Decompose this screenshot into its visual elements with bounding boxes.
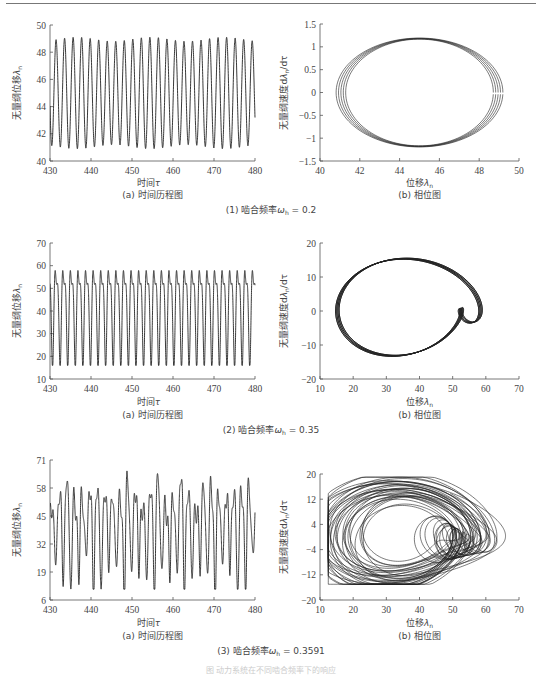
panel-caption: (a) 时间历程图 xyxy=(122,409,182,420)
x-tick-label: 480 xyxy=(248,384,263,394)
phase-orbit xyxy=(343,39,495,146)
y-axis-title: 无量纲速度dλn/dτ xyxy=(278,500,290,574)
axes-frame xyxy=(320,24,519,161)
x-tick-label: 470 xyxy=(207,166,222,176)
y-tick-label: 20 xyxy=(307,470,317,480)
y-tick-label: 58 xyxy=(37,484,47,494)
y-tick-label: 50 xyxy=(37,21,47,31)
figure-caption: 图 动力系统在不同啮合频率下的响应 xyxy=(0,664,542,675)
y-tick-label: 12 xyxy=(307,495,317,505)
x-tick-label: 480 xyxy=(248,605,263,615)
x-tick-label: 430 xyxy=(43,384,58,394)
y-tick-label: 20 xyxy=(307,239,317,249)
x-tick-label: 48 xyxy=(474,166,484,176)
chart-r2b: 10203040506070−20−1001020位移λn无量纲速度dλn/dτ… xyxy=(278,239,524,421)
x-tick-label: 460 xyxy=(166,605,181,615)
x-tick-label: 440 xyxy=(84,384,99,394)
y-axis-title: 无量纲速度dλn/dτ xyxy=(278,274,290,348)
figure-canvas: 430440450460470480404244464850时间τ无量纲位移λn… xyxy=(0,0,542,677)
x-tick-label: 430 xyxy=(43,605,58,615)
svg-text:无量纲速度dλn/dτ: 无量纲速度dλn/dτ xyxy=(278,274,290,348)
phase-orbit xyxy=(346,39,494,146)
x-tick-label: 40 xyxy=(315,166,325,176)
y-axis-title: 无量纲速度dλn/dτ xyxy=(278,55,290,129)
y-tick-label: 45 xyxy=(37,512,47,522)
x-axis-title: 位移λn xyxy=(406,617,433,629)
x-tick-label: 50 xyxy=(448,605,458,615)
y-tick-label: 10 xyxy=(37,375,47,385)
panel-caption: (b) 相位图 xyxy=(398,409,441,420)
x-tick-label: 440 xyxy=(84,166,99,176)
panel-caption: (b) 相位图 xyxy=(398,189,441,200)
y-tick-label: 70 xyxy=(37,239,47,249)
y-axis-title: 无量纲位移λn xyxy=(11,503,23,557)
x-tick-label: 10 xyxy=(315,605,325,615)
y-tick-label: 40 xyxy=(37,157,47,167)
svg-text:无量纲速度dλn/dτ: 无量纲速度dλn/dτ xyxy=(278,55,290,129)
y-tick-label: 60 xyxy=(37,261,47,271)
x-tick-label: 460 xyxy=(166,384,181,394)
y-tick-label: −12 xyxy=(301,570,316,580)
y-tick-label: −20 xyxy=(301,375,316,385)
y-tick-label: −1.5 xyxy=(299,157,316,167)
y-tick-label: 48 xyxy=(37,48,47,58)
x-tick-label: 480 xyxy=(248,166,263,176)
y-tick-label: 1.5 xyxy=(304,20,316,30)
section-caption: (3) 啮合频率ωh = 0.3591 xyxy=(217,645,325,657)
y-tick-label: 4 xyxy=(311,520,316,530)
y-tick-label: 44 xyxy=(37,102,47,112)
y-tick-label: 71 xyxy=(37,456,47,466)
time-series-curve xyxy=(50,471,255,589)
x-tick-label: 70 xyxy=(514,605,524,615)
svg-text:无量纲速度dλn/dτ: 无量纲速度dλn/dτ xyxy=(278,500,290,574)
y-axis-title: 无量纲位移λn xyxy=(11,66,23,120)
x-tick-label: 46 xyxy=(435,166,445,176)
x-tick-label: 42 xyxy=(355,166,365,176)
x-tick-label: 470 xyxy=(207,384,222,394)
x-tick-label: 60 xyxy=(481,605,491,615)
phase-orbit xyxy=(336,38,503,147)
chart-r3b: 10203040506070−20−12−441220位移λn无量纲速度dλn/… xyxy=(278,470,524,642)
axes-frame xyxy=(320,243,519,379)
panel-caption: (a) 时间历程图 xyxy=(122,189,182,200)
panel-caption: (b) 相位图 xyxy=(398,630,441,641)
x-tick-label: 450 xyxy=(125,166,140,176)
y-tick-label: 32 xyxy=(37,540,47,550)
x-axis-title: 时间τ xyxy=(137,396,161,407)
chart-r1a: 430440450460470480404244464850时间τ无量纲位移λn… xyxy=(11,21,262,201)
y-tick-label: 0.5 xyxy=(304,65,316,75)
y-tick-label: 30 xyxy=(37,329,47,339)
x-tick-label: 30 xyxy=(382,384,392,394)
x-axis-title: 时间τ xyxy=(137,177,161,188)
chart-r1b: 404244464850−1.5−1−0.500.511.5位移λn无量纲速度d… xyxy=(278,20,524,201)
x-tick-label: 20 xyxy=(348,605,358,615)
y-tick-label: 0 xyxy=(311,88,316,98)
y-tick-label: 6 xyxy=(41,596,46,606)
x-tick-label: 40 xyxy=(415,605,425,615)
y-tick-label: 10 xyxy=(307,273,317,283)
y-tick-label: 1 xyxy=(311,42,316,52)
y-tick-label: −1 xyxy=(306,134,316,144)
y-tick-label: 50 xyxy=(37,284,47,294)
y-tick-label: 46 xyxy=(37,75,47,85)
y-tick-label: 40 xyxy=(37,307,47,317)
phase-orbit xyxy=(339,258,482,355)
x-axis-title: 时间τ xyxy=(137,617,161,628)
x-tick-label: 430 xyxy=(43,166,58,176)
y-tick-label: −20 xyxy=(301,596,316,606)
phase-orbit xyxy=(341,39,498,147)
y-tick-label: 20 xyxy=(37,352,47,362)
time-series-curve xyxy=(50,37,255,149)
x-tick-label: 20 xyxy=(348,384,358,394)
x-tick-label: 70 xyxy=(514,384,524,394)
x-tick-label: 50 xyxy=(448,384,458,394)
phase-attractor xyxy=(328,477,505,584)
x-tick-label: 440 xyxy=(84,605,99,615)
y-tick-label: 42 xyxy=(37,129,47,139)
svg-text:无量纲位移λn: 无量纲位移λn xyxy=(11,66,23,120)
chart-r3a: 43044045046047048061932455871时间τ无量纲位移λn(… xyxy=(11,456,262,642)
x-axis-title: 位移λn xyxy=(406,177,433,189)
y-tick-label: −0.5 xyxy=(299,111,316,121)
panel-caption: (a) 时间历程图 xyxy=(122,630,182,641)
y-tick-label: 19 xyxy=(37,568,47,578)
